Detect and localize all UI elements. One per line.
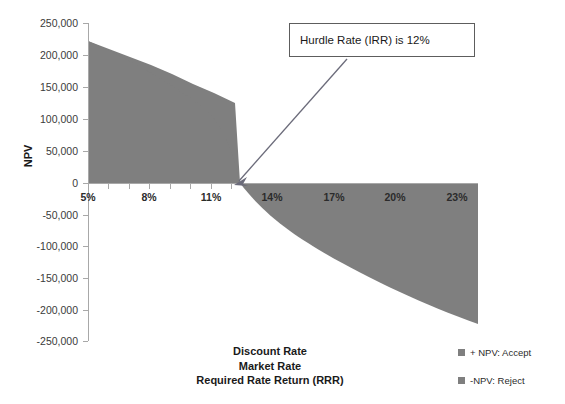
x-axis-title: Discount Rate Market Rate Required Rate … (120, 344, 420, 388)
y-tick-label: 150,000 (40, 81, 78, 93)
hurdle-rate-annotation: Hurdle Rate (IRR) is 12% (289, 23, 475, 57)
y-tick-label: -200,000 (37, 304, 79, 316)
y-tick-label: 100,000 (40, 113, 78, 125)
hurdle-rate-annotation-text: Hurdle Rate (IRR) is 12% (300, 34, 430, 46)
legend-label: -NPV: Reject (470, 375, 525, 386)
y-axis-title: NPV (22, 136, 34, 176)
x-tick-label: 5% (80, 191, 96, 203)
negative-npv-area (240, 183, 478, 324)
legend-item-reject: -NPV: Reject (458, 373, 563, 387)
y-tick-label: 50,000 (46, 145, 78, 157)
legend-label: + NPV: Accept (470, 347, 531, 358)
npv-vs-discount-rate-chart: · · · (0, 0, 565, 404)
y-tick-label: -50,000 (42, 209, 78, 221)
x-tick-label: 11% (201, 191, 222, 203)
y-axis-ticks (83, 23, 88, 341)
y-axis-tick-labels: 250,000 200,000 150,000 100,000 50,000 0… (37, 17, 79, 347)
legend-swatch-icon (458, 349, 465, 356)
x-tick-label: 8% (141, 191, 157, 203)
x-tick-label: 14% (261, 191, 283, 203)
y-tick-label: -100,000 (37, 240, 79, 252)
legend-swatch-icon (458, 377, 465, 384)
x-tick-label: 17% (323, 191, 345, 203)
y-tick-label: -250,000 (37, 335, 79, 347)
annotation-arrow (234, 59, 347, 186)
x-axis-title-line-1: Discount Rate (120, 344, 420, 359)
y-tick-label: -150,000 (37, 272, 79, 284)
y-tick-label: 250,000 (40, 17, 78, 29)
chart-legend: + NPV: Accept -NPV: Reject (458, 345, 563, 401)
x-tick-label: 20% (384, 191, 406, 203)
y-tick-label: 200,000 (40, 49, 78, 61)
x-axis-title-line-2: Market Rate (120, 359, 420, 374)
x-tick-label: 23% (446, 191, 468, 203)
x-axis-title-line-3: Required Rate Return (RRR) (120, 373, 420, 388)
x-axis-ticks (88, 183, 231, 189)
legend-item-accept: + NPV: Accept (458, 345, 563, 359)
y-tick-label: 0 (72, 177, 78, 189)
